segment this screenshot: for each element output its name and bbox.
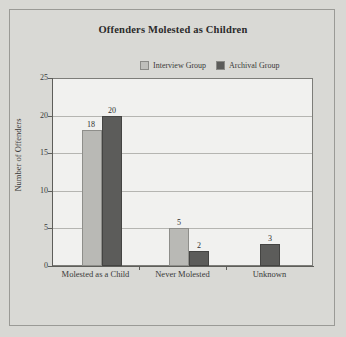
legend-swatch-archival-group	[216, 61, 225, 70]
y-axis-title: Number of Offenders	[13, 95, 23, 215]
chart-legend: Interview Group Archival Group	[140, 58, 320, 72]
legend-label-archival-group: Archival Group	[229, 61, 279, 70]
legend-item-archival-group: Archival Group	[216, 61, 279, 70]
bar-value-unknown-archival: 3	[258, 234, 282, 243]
x-axis-line	[52, 266, 314, 267]
y-tick-label-25: 25	[26, 73, 48, 82]
y-tick-label-5: 5	[26, 223, 48, 232]
y-tick-label-10: 10	[26, 186, 48, 195]
x-tick-label-unknown: Unknown	[226, 269, 313, 279]
y-tick-mark-15	[48, 153, 52, 154]
chart-title: Offenders Molested as Children	[0, 24, 346, 35]
y-tick-mark-20	[48, 116, 52, 117]
bar-value-never-molested-archival: 2	[187, 241, 211, 250]
legend-swatch-interview-group	[140, 61, 149, 70]
y-tick-mark-5	[48, 228, 52, 229]
y-tick-mark-10	[48, 191, 52, 192]
bar-molested-as-a-child-interview	[82, 130, 102, 266]
x-tick-label-never-molested: Never Molested	[139, 269, 226, 279]
legend-label-interview-group: Interview Group	[153, 61, 206, 70]
y-tick-mark-25	[48, 78, 52, 79]
bar-molested-as-a-child-archival	[102, 116, 122, 266]
y-tick-label-0: 0	[26, 261, 48, 270]
gridline-20	[53, 116, 312, 117]
y-tick-label-20: 20	[26, 111, 48, 120]
bar-value-never-molested-interview: 5	[167, 218, 191, 227]
legend-item-interview-group: Interview Group	[140, 61, 206, 70]
y-axis-line	[52, 78, 53, 267]
bar-value-molested-as-a-child-archival: 20	[100, 106, 124, 115]
y-tick-mark-0	[48, 266, 52, 267]
bar-value-molested-as-a-child-interview: 18	[79, 120, 103, 129]
bar-unknown-archival	[260, 244, 280, 266]
chart-screenshot: Offenders Molested as Children Interview…	[0, 0, 346, 337]
x-tick-label-molested-as-a-child: Molested as a Child	[52, 269, 139, 279]
bar-never-molested-archival	[189, 251, 209, 266]
bar-never-molested-interview	[169, 228, 189, 266]
y-tick-label-15: 15	[26, 148, 48, 157]
